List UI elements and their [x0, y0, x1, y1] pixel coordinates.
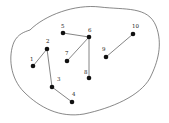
labels-group: 12345678910 [30, 23, 139, 97]
edge-5-6 [63, 33, 89, 37]
node-9 [104, 55, 109, 60]
edge-9-10 [106, 34, 133, 57]
node-8 [87, 76, 92, 81]
node-5 [61, 31, 66, 36]
node-4 [70, 100, 75, 105]
node-label-3: 3 [57, 76, 61, 82]
edge-6-7 [67, 37, 89, 61]
node-2 [45, 47, 50, 52]
node-3 [50, 85, 55, 90]
node-7 [65, 59, 70, 64]
edge-1-2 [33, 49, 47, 66]
node-label-8: 8 [84, 69, 88, 75]
node-label-10: 10 [132, 23, 139, 29]
edge-2-3 [47, 49, 52, 87]
node-label-1: 1 [30, 56, 34, 62]
node-label-4: 4 [72, 91, 76, 97]
node-label-5: 5 [61, 23, 65, 29]
node-10 [131, 32, 136, 37]
node-6 [87, 35, 92, 40]
node-label-6: 6 [88, 27, 92, 33]
node-1 [31, 64, 36, 69]
node-label-7: 7 [65, 50, 69, 56]
graph-diagram: 12345678910 [0, 0, 169, 123]
edge-3-4 [52, 87, 72, 102]
node-label-9: 9 [102, 46, 106, 52]
node-label-2: 2 [46, 38, 50, 44]
